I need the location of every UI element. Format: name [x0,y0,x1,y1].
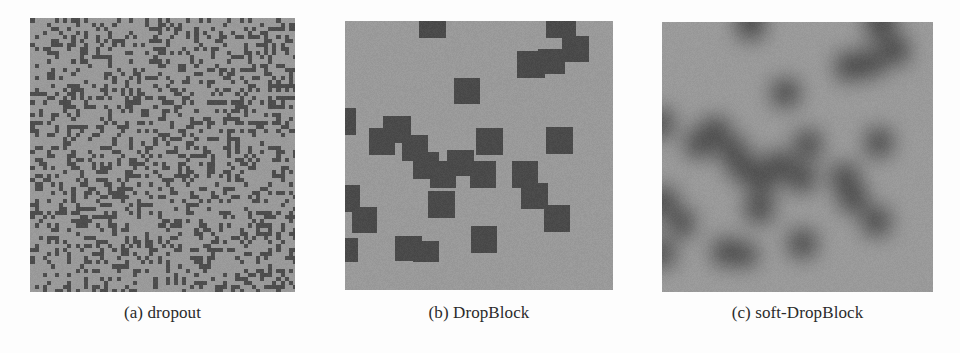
panel-caption-dropout: (a) dropout [30,303,295,323]
panel-soft-dropblock [662,22,933,292]
panel-caption-dropblock: (b) DropBlock [345,303,613,323]
dropblock-mask-image [345,21,613,290]
dropout-mask-image [30,18,295,292]
soft-dropblock-mask-image [662,22,933,292]
panel-caption-soft-dropblock: (c) soft-DropBlock [662,303,933,323]
panel-dropblock [345,21,613,290]
figure-panel-row: (a) dropout (b) DropBlock (c) soft-DropB… [0,0,960,353]
panel-dropout [30,18,295,292]
